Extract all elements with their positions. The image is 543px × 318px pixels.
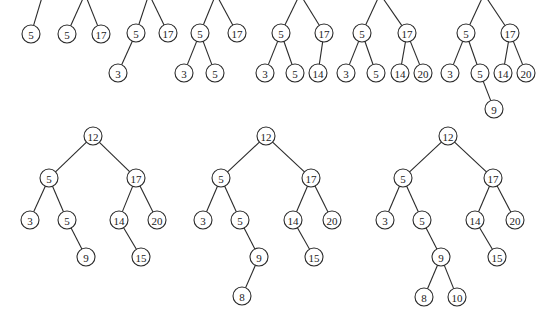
tree-node: 3 [21,211,39,229]
tree-edge [268,41,277,64]
node-label: 5 [46,173,52,185]
tree-edge [483,81,490,100]
node-label: 3 [27,215,33,227]
tree-edge [410,142,442,172]
tree-node: 15 [132,248,150,266]
tree-node: 3 [109,64,127,82]
node-label: 3 [115,68,121,80]
node-label: 17 [488,173,500,185]
tree-edge [34,0,43,25]
tree-node: 9 [77,248,95,266]
tree-edge [71,228,82,249]
node-label: 9 [491,104,497,116]
node-label: 12 [443,131,454,143]
tree-edge [139,0,149,24]
tree-edge [34,186,46,212]
tree-node: 9 [432,248,450,266]
node-label: 3 [200,215,206,227]
tree-edge [453,41,462,64]
tree-5: 5173514 [256,0,333,82]
node-label: 5 [278,28,284,40]
tree-7: 5173514209 [441,0,535,118]
tree-edge [297,186,308,211]
tree-node: 5 [286,64,304,82]
tree-node: 3 [337,64,355,82]
tree-edge [246,265,256,287]
tree-edge [497,186,511,212]
tree-node: 8 [233,287,251,305]
tree-edge [228,142,260,172]
tree-edge [407,186,419,212]
node-label: 17 [163,28,175,40]
tree-edge [300,0,319,25]
node-label: 5 [133,28,139,40]
tree-node: 17 [501,24,519,42]
tree-edge [99,142,129,171]
tree-edge [225,186,237,212]
tree-node: 5 [231,211,249,229]
tree-edge [216,0,233,25]
tree-edge [469,41,477,64]
tree-9: 125173514209158 [194,127,341,305]
node-label: 20 [521,68,533,80]
tree-edge [444,265,453,288]
tree-node: 20 [148,211,166,229]
tree-node: 5 [127,24,145,42]
node-label: 15 [136,252,148,264]
tree-node: 5 [353,24,371,42]
node-label: 3 [181,68,187,80]
node-label: 5 [64,215,70,227]
tree-node: 15 [305,248,323,266]
node-label: 3 [343,68,349,80]
tree-node: 3 [256,64,274,82]
tree-node: 5 [206,64,224,82]
node-label: 5 [237,215,243,227]
tree-node: 5 [58,25,76,43]
tree-node: 14 [309,64,327,82]
tree-node: 5 [58,211,76,229]
tree-node: 5 [367,64,385,82]
trees-layer: 5517517351735517351451735142051735142091… [21,0,535,306]
node-label: 17 [402,28,414,40]
tree-node: 14 [494,64,512,82]
node-label: 10 [452,292,464,304]
node-label: 5 [212,68,218,80]
tree-node: 15 [488,248,506,266]
tree-node: 9 [485,100,503,118]
node-label: 5 [463,28,469,40]
tree-edge [505,42,509,64]
tree-node: 3 [441,64,459,82]
tree-node: 8 [415,288,433,306]
node-label: 9 [256,252,262,264]
tree-edge [207,186,218,211]
tree-node: 12 [257,127,275,145]
node-label: 3 [447,68,453,80]
node-label: 15 [309,252,321,264]
tree-node: 10 [448,288,466,306]
tree-node: 14 [284,211,302,229]
tree-edge [380,0,402,26]
tree-edge [455,142,487,172]
tree-2: 517 [58,0,110,43]
tree-edge [187,41,196,64]
tree-edge [53,186,64,211]
tree-edge [203,0,216,25]
node-label: 20 [152,215,164,227]
node-label: 14 [395,68,407,80]
tree-node: 5 [212,169,230,187]
tree-edge [122,186,132,211]
node-label: 5 [400,173,406,185]
tree-node: 14 [110,211,128,229]
tree-node: 5 [471,64,489,82]
tree-edge [426,228,437,249]
tree-node: 20 [506,211,524,229]
node-label: 3 [382,215,388,227]
node-label: 17 [232,28,244,40]
tree-node: 9 [250,248,268,266]
tree-edge [124,228,137,250]
tree-edge [273,142,305,172]
tree-node: 17 [127,169,145,187]
node-label: 15 [492,252,504,264]
tree-edge [484,0,505,26]
tree-node: 5 [413,211,431,229]
